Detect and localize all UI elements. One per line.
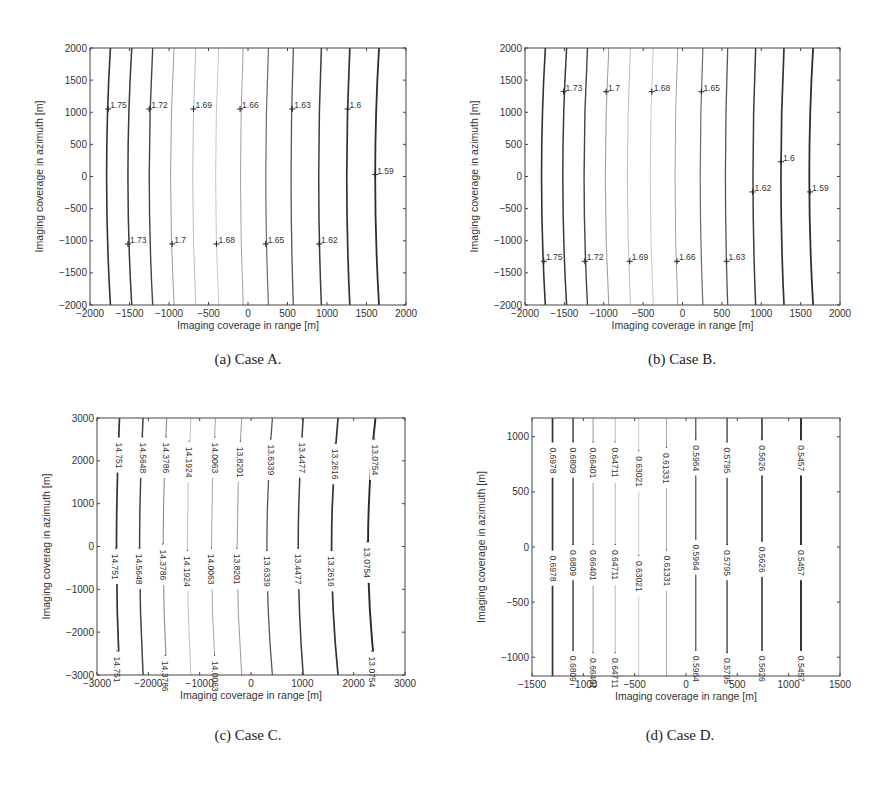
y-tick-label: 500 bbox=[70, 139, 87, 150]
y-axis-label: Imaging coverage in azimuth [m] bbox=[33, 101, 45, 253]
caption-d: (d) Case D. bbox=[530, 727, 830, 744]
x-tick-label: −1000 bbox=[155, 308, 184, 319]
contour-line bbox=[291, 46, 293, 307]
contour-label: 1.72 bbox=[151, 100, 168, 110]
contour-label: 0.66401 bbox=[588, 447, 598, 478]
x-axis-label: Imaging coverage in range [m] bbox=[615, 690, 757, 702]
contour-label: 1.68 bbox=[654, 83, 671, 93]
contour-label: 1.63 bbox=[729, 252, 746, 262]
contour-label: 14.1924 bbox=[182, 556, 192, 587]
plot-c: 14.75114.564814.378614.192414.006313.820… bbox=[40, 413, 417, 702]
y-axis: −2000−1500−1000−5000500100015002000Imagi… bbox=[33, 43, 406, 311]
contour-label: 14.5648 bbox=[134, 554, 144, 585]
contour-line bbox=[675, 46, 678, 307]
contour-label: 14.751 bbox=[114, 442, 124, 468]
contour-label: 0.5795 bbox=[722, 447, 732, 473]
contour-label: 1.72 bbox=[587, 252, 604, 262]
contour-line bbox=[542, 46, 546, 307]
contour-label: 0.5964 bbox=[691, 445, 701, 471]
contour-label: 0.5626 bbox=[757, 547, 767, 573]
contour-label: 1.66 bbox=[242, 100, 259, 110]
contour-label: 13.2616 bbox=[330, 449, 340, 480]
y-tick-label: 0 bbox=[81, 171, 87, 182]
contour-label: 0.61331 bbox=[661, 453, 671, 484]
contour-label: 1.65 bbox=[703, 83, 720, 93]
contour-label: 1.6 bbox=[350, 100, 362, 110]
y-tick-label: 0 bbox=[516, 171, 522, 182]
y-tick-label: −500 bbox=[506, 597, 529, 608]
contour-lines bbox=[542, 46, 814, 307]
contour-label: 14.751 bbox=[110, 554, 120, 580]
contour-line bbox=[781, 46, 784, 307]
caption-c: (c) Case C. bbox=[98, 727, 398, 744]
contour-line bbox=[216, 46, 219, 307]
contour-label: 0.5795 bbox=[722, 550, 732, 576]
y-tick-label: 1000 bbox=[72, 498, 95, 509]
x-tick-label: 1500 bbox=[790, 308, 813, 319]
x-axis: −2000−1500−1000−5000500100015002000Imagi… bbox=[511, 48, 852, 331]
contour-label: 13.4477 bbox=[293, 554, 303, 585]
x-tick-label: −1500 bbox=[550, 308, 579, 319]
contour-labels: 0.69780.68090.664010.647110.630210.61331… bbox=[548, 439, 806, 693]
x-tick-label: 3000 bbox=[394, 678, 417, 689]
contour-label: 0.64711 bbox=[610, 447, 620, 477]
contour-label: 0.63021 bbox=[634, 561, 644, 592]
contour-line bbox=[347, 46, 350, 307]
contour-label: 13.0754 bbox=[362, 547, 372, 578]
plot-b: 1.731.71.681.651.61.621.591.751.721.691.… bbox=[468, 43, 852, 332]
y-tick-label: −1500 bbox=[59, 267, 88, 278]
y-tick-label: −2000 bbox=[494, 300, 523, 311]
contour-line bbox=[107, 46, 111, 307]
contour-line bbox=[266, 46, 269, 307]
contour-line bbox=[809, 46, 813, 307]
contour-label: 13.6339 bbox=[262, 556, 272, 587]
x-tick-label: 1000 bbox=[316, 308, 339, 319]
plot-a: 1.751.721.691.661.631.61.591.731.71.681.… bbox=[33, 43, 418, 332]
contour-line bbox=[375, 46, 379, 307]
x-tick-label: 0 bbox=[683, 679, 689, 690]
plot-d: 0.69780.68090.664010.647110.630210.61331… bbox=[475, 416, 852, 702]
y-tick-label: −1000 bbox=[494, 235, 523, 246]
contour-label: 1.59 bbox=[812, 183, 829, 193]
contour-line bbox=[193, 46, 196, 307]
contour-label: 1.69 bbox=[632, 252, 649, 262]
contour-label: 14.751 bbox=[112, 657, 122, 683]
contour-line bbox=[584, 46, 588, 307]
contour-label: 0.5964 bbox=[691, 544, 701, 570]
contour-label: 13.8201 bbox=[232, 554, 242, 585]
x-tick-label: 1500 bbox=[355, 308, 378, 319]
contour-label: 13.2616 bbox=[326, 556, 336, 587]
contour-label: 1.59 bbox=[377, 166, 394, 176]
figure-canvas: 1.751.721.691.661.631.61.591.731.71.681.… bbox=[0, 0, 888, 785]
x-tick-label: −1000 bbox=[186, 678, 215, 689]
y-tick-label: −1500 bbox=[494, 267, 523, 278]
y-axis: −3000−2000−10000100020003000Imaging cove… bbox=[40, 413, 405, 681]
caption-b: (b) Case B. bbox=[532, 351, 832, 368]
y-tick-label: 1000 bbox=[65, 107, 88, 118]
x-axis-label: Imaging coverage in range [m] bbox=[612, 319, 754, 331]
y-tick-label: −1000 bbox=[501, 652, 530, 663]
contour-label: 1.73 bbox=[566, 83, 583, 93]
contour-label: 0.5457 bbox=[796, 445, 806, 471]
contour-label: 0.64711 bbox=[610, 658, 620, 688]
contour-label: 13.6339 bbox=[266, 445, 276, 476]
contour-label: 0.6809 bbox=[568, 447, 578, 473]
y-tick-label: −3000 bbox=[66, 670, 95, 681]
contour-label: 1.75 bbox=[110, 100, 127, 110]
x-axis-label: Imaging coverage in range [m] bbox=[180, 689, 322, 701]
y-tick-label: −2000 bbox=[59, 300, 88, 311]
y-tick-label: −500 bbox=[64, 203, 87, 214]
y-axis-label: Imaging coverage in azimuth [m] bbox=[468, 101, 480, 253]
x-tick-label: −500 bbox=[632, 308, 655, 319]
x-tick-label: 1000 bbox=[750, 308, 773, 319]
axes-box bbox=[90, 48, 406, 305]
contour-label: 1.73 bbox=[130, 235, 147, 245]
contour-labels: 14.75114.564814.378614.192414.006313.820… bbox=[110, 436, 379, 696]
y-tick-label: 1000 bbox=[507, 431, 530, 442]
x-tick-label: −1000 bbox=[569, 679, 598, 690]
y-tick-label: −1000 bbox=[66, 584, 95, 595]
contour-label: 13.0754 bbox=[367, 657, 377, 688]
x-tick-label: 1000 bbox=[291, 678, 314, 689]
x-tick-label: −1500 bbox=[115, 308, 144, 319]
contour-line bbox=[627, 46, 630, 307]
